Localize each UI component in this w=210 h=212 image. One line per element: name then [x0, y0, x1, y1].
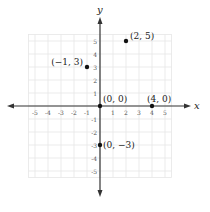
y-tick-label: 3	[93, 64, 97, 71]
y-axis-label: y	[96, 4, 103, 15]
y-tick-label: 4	[93, 51, 97, 58]
point-label: (2, 5)	[130, 31, 154, 41]
y-axis-bottom-arrow-icon	[98, 190, 103, 197]
x-tick-label: -4	[45, 109, 51, 116]
data-point	[85, 65, 89, 69]
data-point	[150, 104, 154, 108]
x-tick-label: 5	[163, 109, 167, 116]
data-point	[124, 39, 128, 43]
x-tick-label: 3	[137, 109, 141, 116]
x-axis-right-arrow-icon	[184, 104, 191, 109]
x-tick-label: -1	[84, 109, 90, 116]
y-tick-label: -4	[91, 155, 97, 162]
y-tick-label: 2	[93, 77, 97, 84]
y-tick-label: 5	[93, 38, 97, 45]
data-point	[98, 104, 102, 108]
x-tick-label: 2	[124, 109, 128, 116]
y-tick-label: -2	[91, 129, 97, 136]
y-axis-top-arrow-icon	[98, 17, 103, 24]
x-tick-label: -2	[71, 109, 77, 116]
y-tick-label: -3	[91, 142, 97, 149]
y-tick-label: 1	[93, 90, 97, 97]
x-tick-label: 1	[111, 109, 115, 116]
point-label: (0, −3)	[103, 140, 135, 150]
x-tick-label: -5	[32, 109, 38, 116]
y-tick-label: -1	[91, 116, 97, 123]
coordinate-plane: x y -5-4-3-2-11234554321-1-2-3-4-5 (2, 5…	[0, 0, 210, 212]
x-tick-label: -3	[58, 109, 64, 116]
data-point	[98, 143, 102, 147]
x-axis-left-arrow-icon	[7, 104, 14, 109]
y-tick-label: -5	[91, 168, 97, 175]
x-axis-label: x	[194, 100, 200, 111]
point-label: (0, 0)	[103, 94, 127, 104]
x-tick-label: 4	[150, 109, 154, 116]
point-label: (−1, 3)	[51, 57, 83, 67]
point-label: (4, 0)	[147, 94, 171, 104]
